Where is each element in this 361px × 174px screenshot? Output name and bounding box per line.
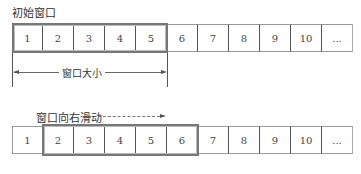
slide-right-title: 窗口向右滑动 bbox=[36, 109, 102, 125]
cell: 5 bbox=[136, 126, 167, 154]
initial-window-title: 初始窗口 bbox=[12, 4, 56, 20]
cell: 8 bbox=[229, 24, 260, 52]
cell: 10 bbox=[291, 126, 322, 154]
cell: 10 bbox=[291, 24, 322, 52]
cell: 2 bbox=[43, 126, 74, 154]
cell: 1 bbox=[12, 126, 43, 154]
window-size-label: 窗口大小 bbox=[59, 65, 105, 80]
slide-direction-dashed-line bbox=[98, 116, 160, 117]
slide-arrow-right-icon bbox=[160, 114, 166, 118]
cell: 6 bbox=[167, 126, 198, 154]
cell: 5 bbox=[136, 24, 167, 52]
bottom-sequence-row: 1 2 3 4 5 6 7 8 9 10 ... bbox=[12, 126, 353, 154]
dimension-right-extension bbox=[167, 53, 168, 87]
cell: 4 bbox=[105, 24, 136, 52]
cell: 3 bbox=[74, 126, 105, 154]
cell: 7 bbox=[198, 24, 229, 52]
top-sequence-row: 1 2 3 4 5 6 7 8 9 10 ... bbox=[12, 24, 353, 52]
cell: 8 bbox=[229, 126, 260, 154]
arrow-left-icon bbox=[13, 70, 19, 74]
arrow-right-icon bbox=[161, 70, 167, 74]
cell-ellipsis: ... bbox=[322, 24, 353, 52]
cell: 1 bbox=[12, 24, 43, 52]
cell: 9 bbox=[260, 24, 291, 52]
cell: 9 bbox=[260, 126, 291, 154]
cell: 6 bbox=[167, 24, 198, 52]
cell: 2 bbox=[43, 24, 74, 52]
cell: 3 bbox=[74, 24, 105, 52]
cell: 4 bbox=[105, 126, 136, 154]
cell: 7 bbox=[198, 126, 229, 154]
cell-ellipsis: ... bbox=[322, 126, 353, 154]
